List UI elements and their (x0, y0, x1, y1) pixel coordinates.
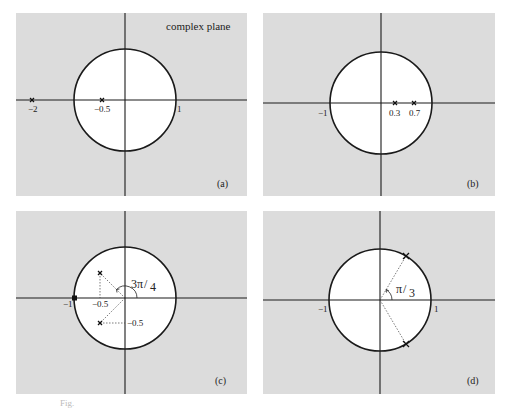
tick-label-0-7: 0.7 (409, 108, 421, 118)
angle-label-numerator: π (396, 282, 402, 296)
pole-marker-filled (72, 296, 77, 301)
figure-caption: Fig. (60, 398, 74, 408)
tick-label-minus-1: −1 (318, 108, 328, 118)
tick-label-minus-0-5-imag: −0.5 (127, 318, 144, 328)
tick-label-1: 1 (177, 104, 182, 114)
tick-label-0-3: 0.3 (389, 108, 401, 118)
tick-label-minus-1: −1 (63, 299, 73, 309)
panel-a: −2 −0.5 1 complex plane (a) (16, 13, 247, 196)
panel-d: −1 1 π / 3 (d) (263, 211, 495, 394)
figure-title: complex plane (166, 20, 231, 32)
tick-label-minus-0-5: −0.5 (94, 104, 111, 114)
angle-label-denominator: 3 (409, 286, 415, 300)
tick-label-minus-1: −1 (318, 304, 328, 314)
tick-label-minus-0-5-real: −0.5 (92, 299, 109, 309)
tick-label-minus-2: −2 (28, 104, 38, 114)
panel-tag-d: (d) (467, 375, 479, 387)
panel-tag-b: (b) (467, 178, 479, 190)
panel-tag-a: (a) (217, 178, 228, 190)
tick-label-1: 1 (434, 304, 439, 314)
panel-tag-c: (c) (215, 375, 226, 387)
panel-b: −1 0.3 0.7 (b) (263, 13, 495, 196)
panel-c: −1 −0.5 −0.5 3π / 4 (c) (16, 211, 247, 394)
angle-label-denominator: 4 (150, 280, 156, 294)
angle-label-numerator: 3π (131, 277, 143, 291)
